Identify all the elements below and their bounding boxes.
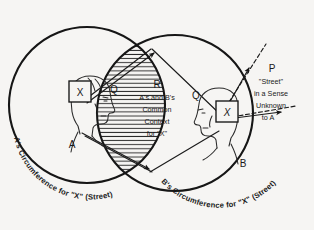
left-sector-marker: Q <box>110 84 118 95</box>
lens-marker: R <box>153 79 160 90</box>
circle-b-caption-text: B's Circumference for "X" (Street) <box>160 177 278 210</box>
person-b-label: B <box>240 158 247 169</box>
outer-region-marker: P <box>269 63 276 74</box>
outer-region-line-3: Unknown <box>256 101 286 110</box>
outer-region-line-1: "Street" <box>259 77 284 86</box>
person-b-head-symbol: X <box>223 107 231 118</box>
circle-a-caption: A's Circumference for "X" (Street) <box>12 136 114 202</box>
right-sector-marker: Q <box>192 90 200 101</box>
lens-line-1: A's and B's <box>139 93 175 102</box>
person-a-head-symbol: X <box>77 87 84 98</box>
lens-line-2: Common <box>142 105 171 114</box>
person-a-label: A <box>69 139 76 150</box>
lens-line-4: for "X" <box>147 129 168 138</box>
diagram-canvas: X A X B Q Q R A's and B's Common Context <box>0 0 314 230</box>
circle-b-caption: B's Circumference for "X" (Street) <box>160 177 278 210</box>
circle-a-caption-text: A's Circumference for "X" (Street) <box>12 136 114 202</box>
venn-diagram-svg: X A X B Q Q R A's and B's Common Context <box>0 0 314 230</box>
outer-region-line-2: in a Sense <box>254 89 288 98</box>
lens-line-3: Context <box>145 117 170 126</box>
unknown-sense-text: P "Street" in a Sense Unknown to A <box>254 63 288 122</box>
outer-region-line-4: to A <box>262 113 275 122</box>
